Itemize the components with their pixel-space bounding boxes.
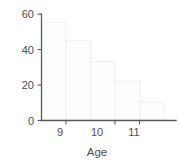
bar-bin-4 xyxy=(115,81,140,120)
x-tick-label-11: 11 xyxy=(128,126,139,138)
x-axis-title: Age xyxy=(87,146,107,158)
bar-bin-3 xyxy=(91,62,116,120)
chart-canvas: 60 40 20 0 9 10 11 Age xyxy=(0,0,179,161)
y-tick-label-20: 20 xyxy=(22,79,34,91)
bar-bin-2 xyxy=(66,40,91,120)
y-tick-label-0: 0 xyxy=(28,115,34,127)
bar-bin-5 xyxy=(140,102,165,120)
bar-bin-1 xyxy=(42,23,67,121)
bar-chart: 60 40 20 0 9 10 11 Age xyxy=(0,0,179,161)
x-tick-label-9: 9 xyxy=(57,126,63,138)
bars-group xyxy=(42,23,165,121)
y-tick-label-40: 40 xyxy=(22,44,34,56)
y-tick-label-60: 60 xyxy=(22,8,34,20)
x-tick-label-10: 10 xyxy=(91,126,103,138)
